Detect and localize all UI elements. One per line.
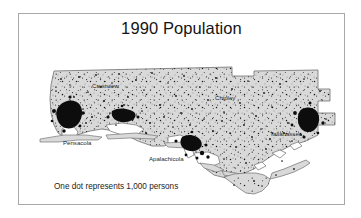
city-label-tallahassee: Tallahassee [270,130,302,137]
city-label-chipley: Chipley [215,94,235,101]
city-label-apalachicola: Apalachicola [149,155,184,162]
city-label-crestview: Crestview [92,82,119,89]
map-canvas: Crestview Pensacola Chipley Tallahassee … [18,13,345,205]
population-map-figure: 1990 Population [0,0,361,218]
map-legend: One dot represents 1,000 persons [54,182,178,191]
city-label-pensacola: Pensacola [63,139,91,146]
florida-panhandle-map [18,13,345,205]
